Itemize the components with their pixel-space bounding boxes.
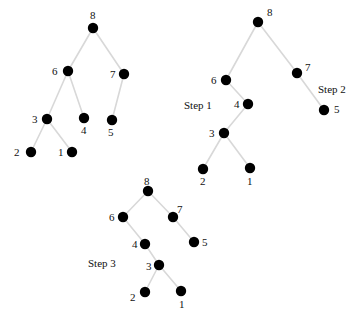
tree-node: [319, 105, 329, 115]
tree-node-label: 3: [209, 128, 215, 139]
tree-node: [140, 287, 150, 297]
tree-node-label: 8: [144, 176, 150, 187]
tree-node: [221, 75, 231, 85]
tree-edge: [148, 191, 173, 217]
tree-edge: [258, 22, 297, 73]
tree-node: [107, 115, 117, 125]
tree-node-label: 5: [108, 127, 114, 138]
tree-edge: [112, 74, 124, 120]
tree-node-label: 2: [14, 147, 20, 158]
tree-node: [42, 114, 52, 124]
tree-node-label: 5: [334, 104, 340, 115]
tree-edge: [68, 28, 93, 71]
tree-node: [140, 239, 150, 249]
tree-node-label: 5: [202, 237, 208, 248]
tree-node: [189, 237, 199, 247]
tree-node-label: 2: [130, 292, 136, 303]
tree-node-label: 1: [58, 147, 64, 158]
tree-node: [245, 163, 255, 173]
tree-node-label: 3: [146, 261, 152, 272]
tree-node-label: 6: [211, 75, 217, 86]
tree-edge: [68, 71, 84, 118]
tree-edge: [47, 71, 68, 119]
tree-node: [154, 260, 164, 270]
step-3-label: Step 3: [88, 258, 116, 269]
tree-node: [88, 23, 98, 33]
tree-node-label: 7: [305, 62, 311, 73]
tree-node-label: 8: [267, 7, 273, 18]
tree-edge: [93, 28, 124, 74]
tree-node-label: 7: [110, 69, 116, 80]
tree-node: [292, 68, 302, 78]
tree-node: [67, 147, 77, 157]
tree-node-label: 8: [90, 10, 96, 21]
tree-node: [253, 17, 263, 27]
tree-node-label: 4: [81, 125, 87, 136]
step-2-label: Step 2: [318, 84, 346, 95]
tree-node: [119, 69, 129, 79]
heap-steps-figure: 867345218674532186745321Step 1Step 2Step…: [0, 0, 363, 322]
tree-node-label: 3: [32, 114, 38, 125]
tree-node-label: 4: [234, 99, 240, 110]
tree-node: [243, 99, 253, 109]
tree-edges-and-nodes: [0, 0, 363, 322]
tree-node: [79, 113, 89, 123]
tree-edge: [226, 22, 258, 80]
step-1-label: Step 1: [184, 100, 212, 111]
tree-node-label: 6: [109, 212, 115, 223]
tree-node: [26, 147, 36, 157]
tree-node-label: 7: [177, 204, 183, 215]
tree-node: [198, 164, 208, 174]
tree-node: [63, 66, 73, 76]
tree-node: [176, 286, 186, 296]
tree-edge: [123, 191, 148, 217]
tree-node: [219, 128, 229, 138]
tree-node-label: 2: [200, 176, 206, 187]
tree-step-1-2-nodes: [198, 17, 329, 174]
tree-step-1-2-edges: [203, 22, 324, 169]
tree-node-label: 1: [179, 299, 185, 310]
tree-node-label: 1: [247, 176, 253, 187]
tree-node: [143, 186, 153, 196]
tree-node: [118, 212, 128, 222]
tree-node-label: 6: [52, 66, 58, 77]
tree-node-label: 4: [132, 239, 138, 250]
tree-edge: [224, 133, 250, 168]
